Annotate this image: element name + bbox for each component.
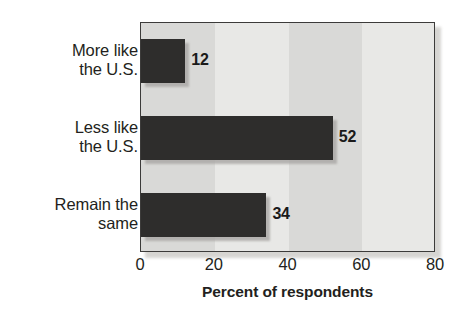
category-label-line1: More like	[72, 41, 138, 59]
bar-value-label-more-like-us: 12	[191, 52, 208, 68]
bar-value-label-remain-the-same: 34	[272, 206, 289, 222]
x-tick-label-40: 40	[279, 255, 297, 274]
x-tick-label-80: 80	[426, 255, 444, 274]
category-label-line2: same	[98, 214, 138, 232]
category-axis-labels: More like the U.S. Less like the U.S. Re…	[12, 22, 138, 252]
category-label-more-like-us: More like the U.S.	[12, 22, 138, 99]
category-label-line1: Remain the	[55, 195, 138, 213]
x-axis-title: Percent of respondents	[140, 283, 435, 301]
bar-less-like-us	[141, 116, 333, 160]
x-tick-label-60: 60	[352, 255, 370, 274]
category-label-line2: the U.S.	[79, 137, 138, 155]
category-label-less-like-us: Less like the U.S.	[12, 99, 138, 176]
category-label-line1: Less like	[75, 118, 138, 136]
background-band-60-80	[362, 23, 435, 251]
x-tick-label-20: 20	[205, 255, 223, 274]
bar-more-like-us	[141, 39, 185, 83]
bar-remain-the-same	[141, 193, 266, 237]
category-label-text: More like the U.S.	[20, 41, 138, 79]
category-label-text: Less like the U.S.	[20, 118, 138, 156]
chart-screenshot: More like the U.S. Less like the U.S. Re…	[0, 0, 464, 317]
x-tick-label-0: 0	[136, 255, 145, 274]
bar-value-label-less-like-us: 52	[339, 129, 356, 145]
category-label-remain-the-same: Remain the same	[12, 175, 138, 252]
category-label-line2: the U.S.	[79, 60, 138, 78]
category-label-text: Remain the same	[20, 195, 138, 233]
